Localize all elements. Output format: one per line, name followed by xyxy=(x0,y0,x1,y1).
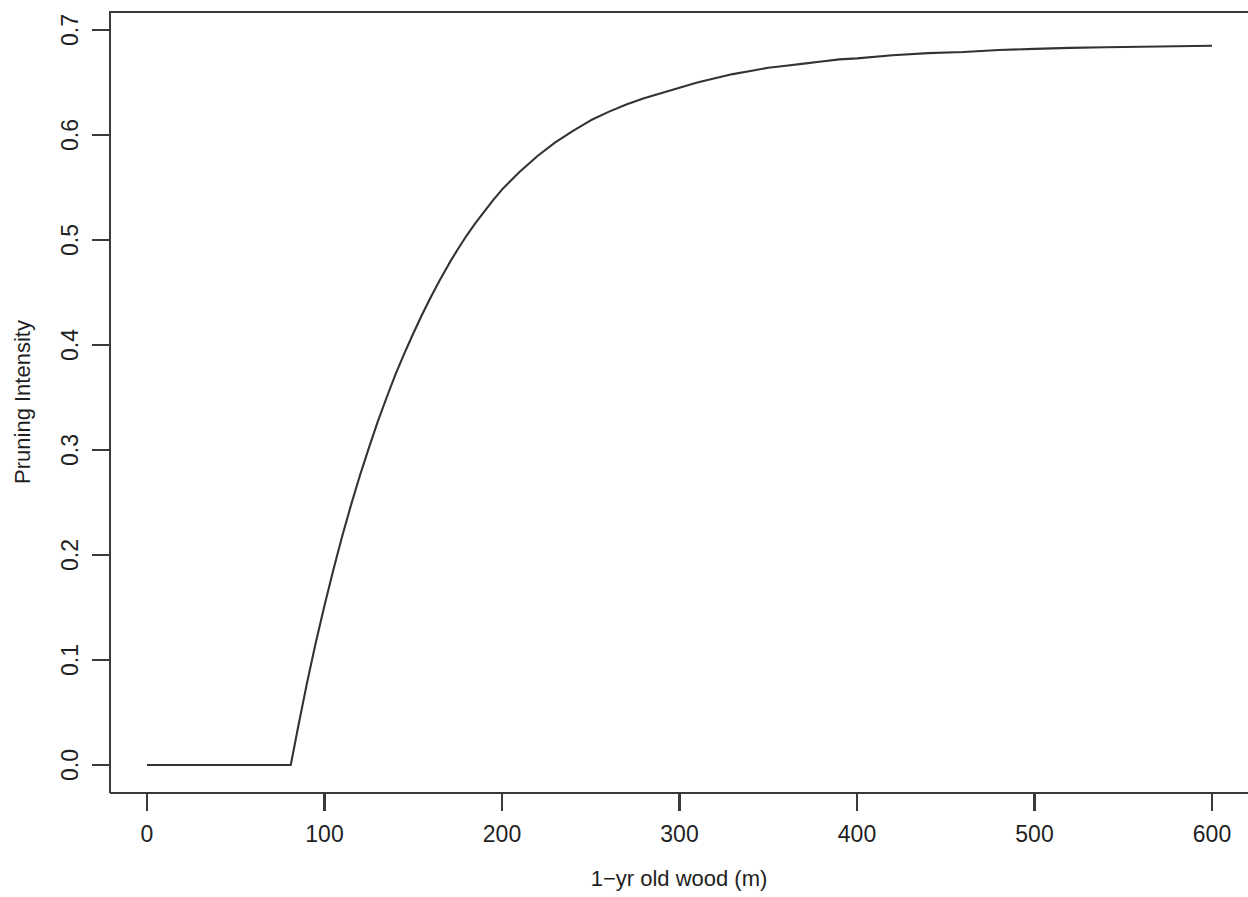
y-tick-label: 0.0 xyxy=(57,749,83,781)
x-axis-title: 1−yr old wood (m) xyxy=(591,866,768,891)
x-tick-label: 500 xyxy=(1015,821,1053,847)
x-tick-label: 300 xyxy=(660,821,698,847)
x-tick-label: 200 xyxy=(483,821,521,847)
chart-figure: 0100200300400500600 0.00.10.20.30.40.50.… xyxy=(0,0,1248,897)
y-tick-label: 0.7 xyxy=(57,14,83,46)
y-axis-ticks xyxy=(92,30,110,765)
x-axis-tick-labels: 0100200300400500600 xyxy=(141,821,1232,847)
y-axis-title: Pruning Intensity xyxy=(10,320,35,484)
x-tick-label: 400 xyxy=(838,821,876,847)
pruning-intensity-line-chart: 0100200300400500600 0.00.10.20.30.40.50.… xyxy=(0,0,1248,897)
y-tick-label: 0.4 xyxy=(57,329,83,361)
y-tick-label: 0.1 xyxy=(57,644,83,676)
y-tick-label: 0.5 xyxy=(57,224,83,256)
y-tick-label: 0.6 xyxy=(57,119,83,151)
data-series-line xyxy=(147,46,1212,765)
x-tick-label: 100 xyxy=(305,821,343,847)
y-tick-label: 0.2 xyxy=(57,539,83,571)
y-tick-label: 0.3 xyxy=(57,434,83,466)
plot-frame-box xyxy=(110,12,1248,793)
y-axis-tick-labels: 0.00.10.20.30.40.50.60.7 xyxy=(57,14,83,781)
x-tick-label: 600 xyxy=(1193,821,1231,847)
x-axis-ticks xyxy=(147,793,1212,811)
x-tick-label: 0 xyxy=(141,821,154,847)
